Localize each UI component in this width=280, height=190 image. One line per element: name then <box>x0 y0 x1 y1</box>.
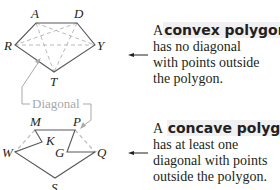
vertex-label-m: M <box>29 114 42 129</box>
vertex-label-y: Y <box>97 38 106 53</box>
vertex-label-t: T <box>50 74 58 89</box>
convex-line-3: the polygon. <box>153 71 280 87</box>
vertex-label-p: P <box>72 114 81 129</box>
arrow-convex <box>128 53 148 57</box>
concave-line-1: has at least one <box>153 137 280 153</box>
concave-line-3: outside the polygon. <box>153 169 280 185</box>
diagonal-label: Diagonal <box>32 96 80 111</box>
vertex-label-g: G <box>55 145 65 160</box>
vertex-label-a: A <box>30 6 39 21</box>
vertex-label-r: R <box>3 38 12 53</box>
convex-description: Aconvex polygon has no diagonal with poi… <box>153 22 280 87</box>
convex-article: A <box>153 23 163 38</box>
vertex-label-s: S <box>51 180 58 190</box>
concave-article: A <box>153 121 163 136</box>
convex-line-2: with points outside <box>153 55 280 71</box>
vertex-label-d: D <box>73 6 84 21</box>
concave-heading: A concave polygon <box>153 120 280 137</box>
convex-heading: Aconvex polygon <box>153 22 280 39</box>
convex-term: convex polygon <box>163 22 280 38</box>
vertex-label-q: Q <box>97 145 107 160</box>
concave-description: A concave polygon has at least one diago… <box>153 120 280 185</box>
arrow-concave <box>128 151 148 155</box>
concave-line-2: diagonal with points <box>153 153 280 169</box>
convex-line-1: has no diagonal <box>153 39 280 55</box>
vertex-label-w: W <box>2 145 14 160</box>
concave-term: concave polygon <box>167 120 280 136</box>
